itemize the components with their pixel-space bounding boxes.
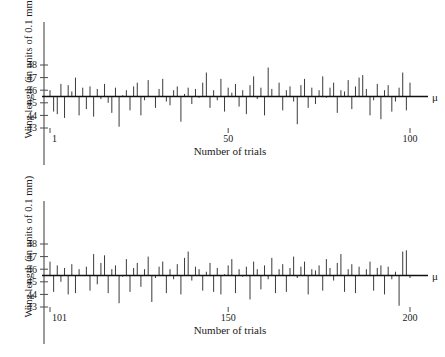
y-tick-label: 47 — [27, 72, 37, 83]
y-tick-label: 48 — [27, 238, 37, 249]
y-tick-label: 45 — [27, 276, 37, 287]
figure-container: 434445464748μ150100 Wing length (in unit… — [0, 0, 445, 357]
y-tick-label: 43 — [27, 122, 37, 133]
mean-symbol: μ — [432, 270, 438, 282]
panel-top: 434445464748μ150100 Wing length (in unit… — [0, 0, 445, 178]
y-tick-label: 48 — [27, 59, 37, 70]
x-tick-label: 101 — [52, 312, 67, 323]
panel-bottom: 434445464748μ101150200 Wing length (in u… — [0, 179, 445, 357]
mean-symbol: μ — [432, 91, 438, 103]
x-axis-label-bottom: Number of trials — [120, 324, 340, 336]
x-tick-label: 100 — [403, 133, 418, 144]
y-tick-label: 46 — [27, 264, 37, 275]
stem-series — [50, 250, 410, 305]
x-tick-label: 150 — [221, 312, 236, 323]
y-tick-label: 44 — [27, 289, 37, 300]
y-tick-label: 44 — [27, 110, 37, 121]
x-tick-label: 50 — [223, 133, 233, 144]
x-tick-label: 1 — [52, 133, 57, 144]
y-tick-label: 43 — [27, 301, 37, 312]
y-tick-label: 45 — [27, 97, 37, 108]
x-tick-label: 200 — [403, 312, 418, 323]
x-axis-label-top: Number of trials — [120, 145, 340, 157]
y-tick-label: 46 — [27, 85, 37, 96]
y-tick-label: 47 — [27, 251, 37, 262]
